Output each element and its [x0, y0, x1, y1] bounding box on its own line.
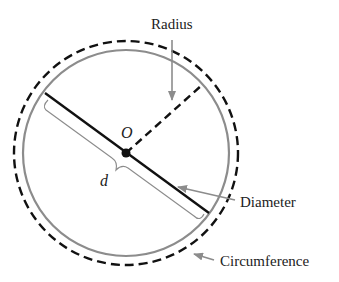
circle-diagram: Radius O d Diameter Circumference: [0, 0, 339, 282]
diameter-label: Diameter: [240, 194, 296, 210]
center-label: O: [121, 124, 133, 141]
circumference-label: Circumference: [220, 253, 309, 269]
diameter-brace: [44, 100, 204, 219]
diameter-symbol-label: d: [100, 172, 109, 189]
radius-dashed-line: [126, 85, 202, 153]
radius-label: Radius: [151, 16, 193, 32]
circumference-arrow: [194, 254, 214, 260]
center-point: [122, 149, 131, 158]
